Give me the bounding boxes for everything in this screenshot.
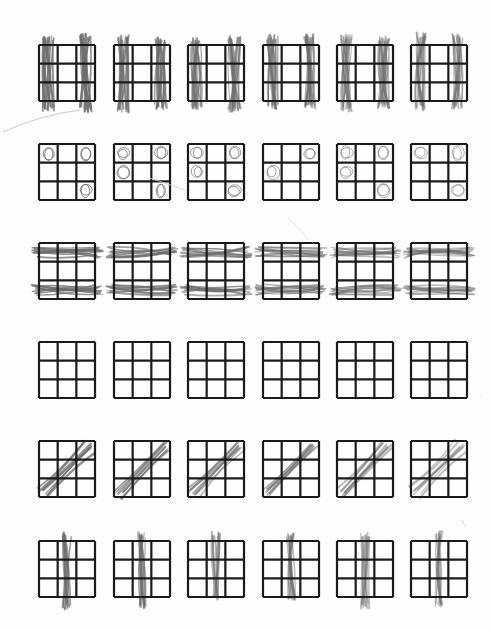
grid-3x3-icon <box>174 328 258 412</box>
grid-r6-c5 <box>337 541 393 597</box>
grid-r2-c2 <box>114 144 170 200</box>
grid-r4-c6 <box>411 342 467 398</box>
grid-r5-c3 <box>188 441 244 497</box>
grid-3x3-icon <box>100 130 184 214</box>
grid-r1-c2 <box>114 45 170 101</box>
grid-3x3-icon <box>323 427 407 511</box>
grid-3x3-icon <box>249 527 333 611</box>
grid-r2-c4 <box>263 144 319 200</box>
grid-r1-c4 <box>263 45 319 101</box>
grid-r4-c2 <box>114 342 170 398</box>
grid-3x3-icon <box>25 527 109 611</box>
grid-r6-c2 <box>114 541 170 597</box>
grid-3x3-icon <box>174 527 258 611</box>
worksheet-page <box>0 0 491 629</box>
grid-r2-c1 <box>39 144 95 200</box>
grid-3x3-icon <box>323 527 407 611</box>
grid-3x3-icon <box>174 130 258 214</box>
grid-3x3-icon <box>249 328 333 412</box>
grid-r1-c5 <box>337 45 393 101</box>
grid-3x3-icon <box>174 229 258 313</box>
grid-r3-c6 <box>411 243 467 299</box>
grid-3x3-icon <box>25 328 109 412</box>
grid-r5-c4 <box>263 441 319 497</box>
grid-r4-c1 <box>39 342 95 398</box>
grid-3x3-icon <box>100 229 184 313</box>
grid-r4-c3 <box>188 342 244 398</box>
grid-3x3-icon <box>100 31 184 115</box>
grid-r6-c1 <box>39 541 95 597</box>
grid-3x3-icon <box>323 31 407 115</box>
grid-r1-c6 <box>411 45 467 101</box>
grid-3x3-icon <box>100 427 184 511</box>
grid-3x3-icon <box>174 31 258 115</box>
grid-r1-c3 <box>188 45 244 101</box>
grid-3x3-icon <box>25 31 109 115</box>
grid-r3-c1 <box>39 243 95 299</box>
grid-3x3-icon <box>397 427 481 511</box>
grid-3x3-icon <box>100 527 184 611</box>
grid-3x3-icon <box>397 130 481 214</box>
grid-r2-c3 <box>188 144 244 200</box>
grid-3x3-icon <box>323 328 407 412</box>
grid-3x3-icon <box>323 229 407 313</box>
grid-r1-c1 <box>39 45 95 101</box>
grid-r3-c4 <box>263 243 319 299</box>
grid-r3-c2 <box>114 243 170 299</box>
grid-3x3-icon <box>249 427 333 511</box>
grid-3x3-icon <box>249 31 333 115</box>
grid-r4-c4 <box>263 342 319 398</box>
grid-3x3-icon <box>25 130 109 214</box>
grid-r5-c6 <box>411 441 467 497</box>
grid-3x3-icon <box>174 427 258 511</box>
grid-3x3-icon <box>397 229 481 313</box>
grid-r5-c1 <box>39 441 95 497</box>
grid-r4-c5 <box>337 342 393 398</box>
grid-r3-c3 <box>188 243 244 299</box>
grid-3x3-icon <box>100 328 184 412</box>
grid-3x3-icon <box>323 130 407 214</box>
grid-r2-c6 <box>411 144 467 200</box>
grid-r5-c5 <box>337 441 393 497</box>
grid-r3-c5 <box>337 243 393 299</box>
grid-3x3-icon <box>249 229 333 313</box>
grid-3x3-icon <box>397 527 481 611</box>
grid-r6-c3 <box>188 541 244 597</box>
grid-3x3-icon <box>25 427 109 511</box>
grid-r6-c6 <box>411 541 467 597</box>
grid-3x3-icon <box>397 328 481 412</box>
grid-3x3-icon <box>397 31 481 115</box>
grid-3x3-icon <box>249 130 333 214</box>
grid-r5-c2 <box>114 441 170 497</box>
grid-3x3-icon <box>25 229 109 313</box>
grid-r2-c5 <box>337 144 393 200</box>
grid-r6-c4 <box>263 541 319 597</box>
